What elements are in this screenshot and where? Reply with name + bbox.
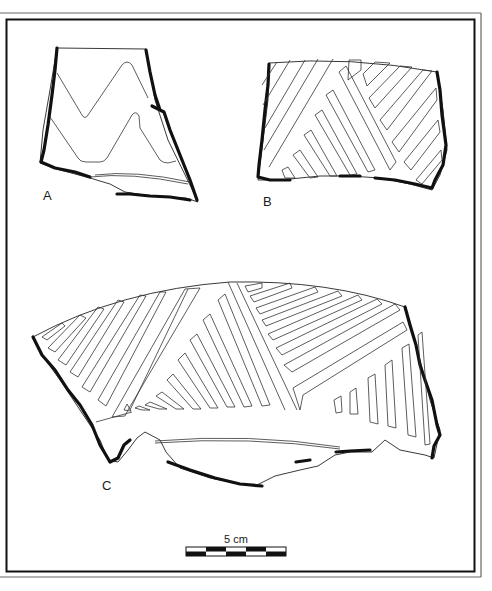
sherd-b-label: B — [263, 194, 272, 209]
sherd-b — [258, 59, 447, 190]
sherd-a — [40, 48, 198, 202]
sherd-figure: A B — [0, 0, 492, 591]
scale-bar-label: 5 cm — [224, 533, 248, 545]
sherd-c — [33, 282, 440, 486]
scale-bar — [186, 547, 286, 556]
sherd-c-label: C — [102, 478, 111, 493]
sherd-a-label: A — [43, 188, 52, 203]
